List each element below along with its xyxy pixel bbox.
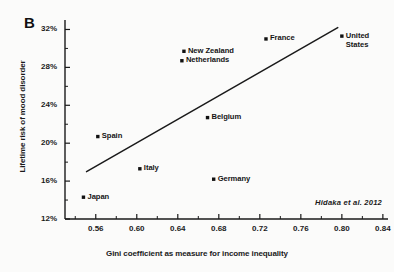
y-tick-label: 28%: [31, 62, 57, 71]
x-tick-label: 0.80: [325, 224, 359, 233]
data-point-marker: [212, 178, 215, 181]
data-point-marker: [82, 196, 85, 199]
y-tick-label: 32%: [31, 24, 57, 33]
x-tick-label: 0.56: [79, 224, 113, 233]
figure-panel-b: B Lifetime risk of mood disorder Gini co…: [0, 0, 394, 272]
y-tick-label: 20%: [31, 138, 57, 147]
x-tick-label: 0.68: [202, 224, 236, 233]
y-tick-label: 12%: [31, 214, 57, 223]
x-axis-title: Gini coefficient as measure for income i…: [0, 249, 394, 258]
x-tick-label: 0.84: [366, 224, 394, 233]
x-tick-label: 0.60: [120, 224, 154, 233]
citation-text: Hidaka et al. 2012: [315, 198, 382, 207]
y-tick-label: 24%: [31, 100, 57, 109]
data-point-marker: [206, 116, 209, 119]
x-tick-marks: [75, 214, 383, 219]
data-point-marker: [138, 167, 141, 170]
x-tick-label: 0.76: [284, 224, 318, 233]
data-point-marker: [96, 135, 99, 138]
data-point-label: France: [270, 33, 295, 43]
x-tick-label: 0.72: [243, 224, 277, 233]
data-point-label: Belgium: [212, 112, 242, 122]
data-point-label: Netherlands: [186, 55, 229, 65]
data-point-label: New Zealand: [188, 46, 234, 56]
data-point-marker: [264, 37, 267, 40]
data-point-label: Spain: [102, 131, 122, 141]
data-point-label: Germany: [218, 174, 251, 184]
x-tick-label: 0.64: [161, 224, 195, 233]
y-axis-title: Lifetime risk of mood disorder: [18, 32, 27, 202]
data-point-label: United States: [346, 31, 369, 50]
data-point-label: Japan: [87, 192, 109, 202]
y-tick-label: 16%: [31, 176, 57, 185]
data-point-marker: [180, 59, 183, 62]
data-point-marker: [182, 50, 185, 53]
data-point-marker: [340, 34, 343, 37]
y-tick-marks: [65, 29, 70, 219]
data-point-label: Italy: [144, 163, 159, 173]
